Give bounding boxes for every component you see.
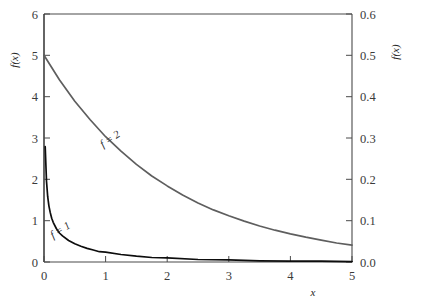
x-tick-label: 3 xyxy=(226,269,232,283)
y-left-tick-label: 6 xyxy=(32,8,38,22)
x-axis-title: x xyxy=(310,286,316,298)
chart-background xyxy=(0,0,422,307)
y-left-tick-label: 5 xyxy=(32,49,38,63)
y-right-tick-label: 0.5 xyxy=(360,49,376,63)
y-right-tick-label: 0.0 xyxy=(360,256,376,270)
x-tick-label: 1 xyxy=(102,269,108,283)
x-tick-label: 5 xyxy=(349,269,355,283)
y-right-axis-title: f(x) xyxy=(389,44,402,60)
y-right-tick-label: 0.1 xyxy=(360,214,376,228)
y-left-tick-label: 3 xyxy=(32,132,38,146)
y-left-tick-label: 0 xyxy=(32,256,38,270)
y-right-tick-label: 0.4 xyxy=(360,90,376,104)
x-tick-label: 4 xyxy=(287,269,294,283)
y-left-tick-label: 4 xyxy=(32,90,39,104)
y-left-tick-label: 1 xyxy=(32,214,38,228)
y-right-tick-label: 0.3 xyxy=(360,132,376,146)
x-tick-label: 2 xyxy=(164,269,170,283)
chart-svg: 0 1 2 3 4 5 6 0.0 0.1 0.2 0.3 0.4 0.5 0.… xyxy=(0,0,422,307)
chart-figure: 0 1 2 3 4 5 6 0.0 0.1 0.2 0.3 0.4 0.5 0.… xyxy=(0,0,422,307)
y-left-tick-label: 2 xyxy=(32,173,38,187)
y-right-tick-label: 0.2 xyxy=(360,173,376,187)
x-tick-label: 0 xyxy=(41,269,47,283)
y-left-axis-title: f(x) xyxy=(8,52,21,68)
y-right-tick-label: 0.6 xyxy=(360,8,376,22)
